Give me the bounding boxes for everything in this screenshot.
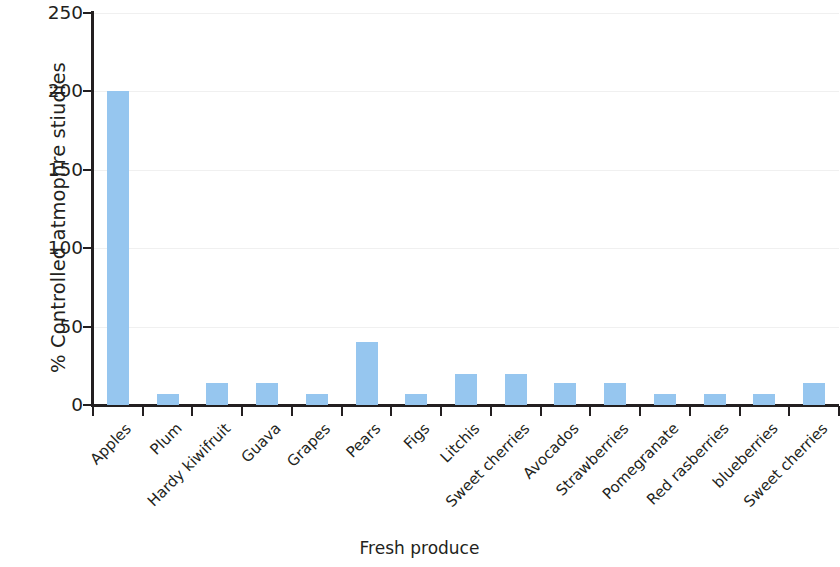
y-tick-mark: [83, 326, 92, 328]
x-tick-mark: [241, 406, 243, 416]
x-tick-label: Figs: [402, 421, 433, 452]
x-tick-label: Sweet cherries: [443, 421, 532, 510]
bar: [405, 394, 427, 405]
x-tick-label: Hardy kiwifruit: [146, 421, 234, 509]
x-tick-label: Red rasberries: [644, 421, 731, 508]
x-tick-mark: [291, 406, 293, 416]
y-tick-mark: [83, 169, 92, 171]
x-tick-mark: [639, 406, 641, 416]
x-tick-label: Avocados: [521, 421, 582, 482]
bar: [306, 394, 328, 405]
y-tick-mark: [83, 90, 92, 92]
x-tick-mark: [490, 406, 492, 416]
x-tick-mark: [440, 406, 442, 416]
y-tick-label: 250: [35, 4, 83, 23]
x-tick-mark: [191, 406, 193, 416]
bar: [455, 374, 477, 405]
bar: [604, 383, 626, 405]
y-tick-label: 0: [35, 396, 83, 415]
bar: [803, 383, 825, 405]
y-tick-mark: [83, 404, 92, 406]
x-tick-mark: [341, 406, 343, 416]
y-tick-label: 200: [35, 82, 83, 101]
y-tick-mark: [83, 12, 92, 14]
bar: [753, 394, 775, 405]
x-tick-mark: [589, 406, 591, 416]
y-tick-label: 50: [35, 318, 83, 337]
bar: [157, 394, 179, 405]
x-tick-label: Pears: [344, 421, 384, 461]
x-tick-label: Grapes: [285, 421, 333, 469]
y-tick-mark: [83, 247, 92, 249]
x-tick-label: Litchis: [438, 421, 483, 466]
x-tick-mark: [142, 406, 144, 416]
x-tick-label: Pomegranate: [600, 421, 681, 502]
x-tick-mark: [390, 406, 392, 416]
y-axis-title: % Controlled atmophre stiudies: [47, 18, 70, 418]
bar: [554, 383, 576, 405]
x-tick-label: Plum: [147, 421, 184, 458]
x-tick-label: Sweet cherries: [742, 421, 831, 510]
x-axis-title: Fresh produce: [0, 538, 839, 558]
x-tick-label: Strawberries: [554, 421, 632, 499]
bar: [107, 91, 129, 405]
x-tick-mark: [92, 406, 94, 416]
bar: [704, 394, 726, 405]
bar: [256, 383, 278, 405]
y-tick-label: 100: [35, 239, 83, 258]
bar: [356, 342, 378, 405]
y-tick-label: 150: [35, 161, 83, 180]
bar: [654, 394, 676, 405]
bar: [505, 374, 527, 405]
x-tick-mark: [540, 406, 542, 416]
x-tick-mark: [788, 406, 790, 416]
x-tick-label: Apples: [88, 421, 134, 467]
x-tick-mark: [689, 406, 691, 416]
x-tick-label: Guava: [239, 421, 284, 466]
x-tick-label: blueberries: [711, 421, 781, 491]
bars-layer: [93, 13, 839, 405]
bar: [206, 383, 228, 405]
x-tick-mark: [739, 406, 741, 416]
